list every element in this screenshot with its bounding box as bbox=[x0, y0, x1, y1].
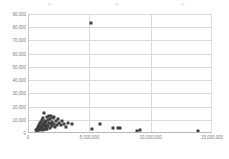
y-axis-tick-label: 70,000 bbox=[0, 38, 26, 43]
gridline-horizontal bbox=[28, 67, 212, 68]
x-axis-tick-labels: 05,000,00010,000,00015,000,000 bbox=[28, 135, 212, 145]
y-axis-tick-labels: 010,00020,00030,00040,00050,00060,00070,… bbox=[0, 14, 26, 133]
y-axis-tick-label: 30,000 bbox=[0, 91, 26, 96]
crop-mark-icon: + bbox=[46, 1, 53, 8]
data-point bbox=[53, 115, 56, 118]
gridline-horizontal bbox=[28, 80, 212, 81]
data-point bbox=[57, 117, 60, 120]
gridline-horizontal bbox=[28, 14, 212, 15]
y-axis-tick-label: 20,000 bbox=[0, 104, 26, 109]
gridline-horizontal bbox=[28, 40, 212, 41]
crop-marks: +++ bbox=[0, 0, 229, 12]
x-axis-tick-label: 15,000,000 bbox=[201, 135, 223, 141]
data-point bbox=[64, 125, 67, 128]
data-point bbox=[118, 127, 121, 130]
plot-area bbox=[28, 14, 212, 133]
data-point bbox=[90, 22, 93, 25]
data-point bbox=[70, 123, 73, 126]
data-point bbox=[42, 111, 45, 114]
x-axis-line bbox=[28, 132, 212, 133]
y-axis-tick-label: 60,000 bbox=[0, 51, 26, 56]
y-axis-tick-label: 40,000 bbox=[0, 78, 26, 83]
plot-border-right bbox=[211, 14, 212, 133]
y-axis-tick-label: 0 bbox=[0, 131, 26, 136]
gridline-vertical bbox=[89, 14, 90, 133]
y-axis-tick-label: 80,000 bbox=[0, 25, 26, 30]
crop-mark-icon: + bbox=[113, 1, 120, 8]
x-axis-tick-label: 5,000,000 bbox=[80, 135, 100, 141]
y-axis-tick-label: 90,000 bbox=[0, 12, 26, 17]
x-axis-tick-label: 0 bbox=[27, 135, 29, 141]
gridline-horizontal bbox=[28, 27, 212, 28]
data-point bbox=[66, 121, 69, 124]
scatter-chart: +++ 010,00020,00030,00040,00050,00060,00… bbox=[0, 0, 229, 159]
y-axis-tick-label: 10,000 bbox=[0, 117, 26, 122]
gridline-horizontal bbox=[28, 54, 212, 55]
crop-mark-icon: + bbox=[179, 1, 186, 8]
y-axis-tick-label: 50,000 bbox=[0, 64, 26, 69]
gridline-vertical bbox=[151, 14, 152, 133]
data-point bbox=[99, 122, 102, 125]
gridline-horizontal bbox=[28, 107, 212, 108]
data-point bbox=[112, 126, 115, 129]
gridline-horizontal bbox=[28, 93, 212, 94]
data-point bbox=[91, 127, 94, 130]
x-axis-tick-label: 10,000,000 bbox=[140, 135, 162, 141]
y-axis-line bbox=[28, 14, 29, 133]
